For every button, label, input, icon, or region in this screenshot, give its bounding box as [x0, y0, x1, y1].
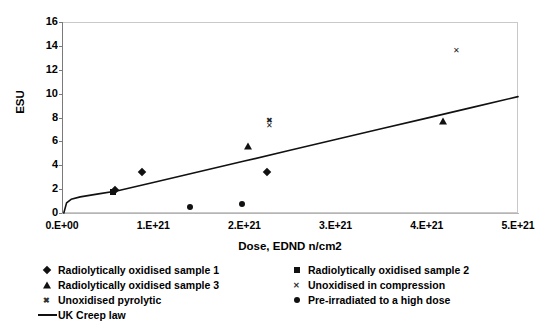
legend-item[interactable]: Unoxidised in compression — [286, 277, 526, 292]
legend-label: Radiolytically oxidised sample 2 — [308, 264, 469, 276]
line-marker-icon — [36, 307, 58, 322]
legend-item[interactable]: UK Creep law — [36, 307, 286, 322]
legend-label: Unoxidised in compression — [308, 279, 445, 291]
legend-label: Pre-irradiated to a high dose — [308, 294, 450, 306]
legend-label: Radiolytically oxidised sample 3 — [58, 279, 219, 291]
legend-label: UK Creep law — [58, 309, 126, 321]
legend-label: Radiolytically oxidised sample 1 — [58, 264, 219, 276]
data-point-x-thin — [452, 46, 461, 55]
square-marker-icon-swatch — [294, 267, 300, 273]
circle-marker-icon-swatch — [294, 297, 300, 303]
data-point-circle — [187, 204, 193, 210]
data-point-circle — [239, 201, 245, 207]
diamond-marker-icon — [36, 262, 58, 277]
data-point-square — [110, 189, 116, 195]
triangle-marker-icon — [36, 277, 58, 292]
legend-item[interactable]: Pre-irradiated to a high dose — [286, 292, 526, 307]
data-point-triangle — [244, 143, 252, 150]
chart-container: 0246810121416 0.E+001.E+212.E+213.E+214.… — [0, 0, 545, 332]
legend-item[interactable]: Radiolytically oxidised sample 1 — [36, 262, 286, 277]
x-bold-marker-icon-swatch — [43, 295, 52, 304]
legend-column-left: Radiolytically oxidised sample 1Radiolyt… — [36, 262, 286, 322]
legend-column-right: Radiolytically oxidised sample 2Unoxidis… — [286, 262, 526, 307]
circle-marker-icon — [286, 292, 308, 307]
x-thin-marker-icon-swatch — [293, 280, 302, 289]
triangle-marker-icon-swatch — [43, 281, 51, 288]
legend-line-swatch — [38, 314, 57, 316]
x-thin-marker-icon — [286, 277, 308, 292]
legend-label: Unoxidised pyrolytic — [58, 294, 161, 306]
data-point-triangle — [439, 118, 447, 125]
diamond-marker-icon-swatch — [43, 265, 51, 273]
x-bold-marker-icon — [36, 292, 58, 307]
data-point-x-bold — [265, 115, 274, 124]
legend-item[interactable]: Radiolytically oxidised sample 2 — [286, 262, 526, 277]
legend-item[interactable]: Unoxidised pyrolytic — [36, 292, 286, 307]
square-marker-icon — [286, 262, 308, 277]
legend-item[interactable]: Radiolytically oxidised sample 3 — [36, 277, 286, 292]
creep-law-curve — [64, 97, 518, 213]
